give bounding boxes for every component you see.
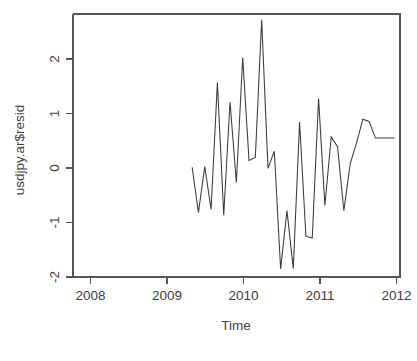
x-tick-label: 2012 — [381, 288, 411, 303]
plot-frame — [73, 14, 400, 277]
x-axis-tick-labels: 2008 2009 2010 2011 2012 — [75, 288, 411, 303]
y-tick-label: -2 — [47, 271, 62, 283]
x-axis-title: Time — [221, 318, 251, 333]
x-tick-label: 2010 — [228, 288, 258, 303]
y-tick-label: 0 — [47, 164, 62, 172]
y-tick-label: -1 — [47, 216, 62, 228]
y-tick-label: 2 — [47, 55, 62, 63]
chart-canvas: -2 -1 0 1 2 2008 2009 2010 2011 2012 usd… — [0, 0, 417, 361]
residual-plot-figure: -2 -1 0 1 2 2008 2009 2010 2011 2012 usd… — [0, 0, 417, 361]
y-axis-ticks — [66, 59, 73, 277]
x-tick-label: 2008 — [75, 288, 105, 303]
y-axis-tick-labels: -2 -1 0 1 2 — [47, 55, 62, 283]
y-axis-title: usdjpy.ar$resid — [12, 105, 27, 196]
x-tick-label: 2009 — [152, 288, 182, 303]
x-tick-label: 2011 — [305, 288, 334, 303]
residual-series-line — [192, 20, 394, 269]
x-axis-ticks — [91, 277, 397, 284]
y-tick-label: 1 — [47, 110, 62, 118]
